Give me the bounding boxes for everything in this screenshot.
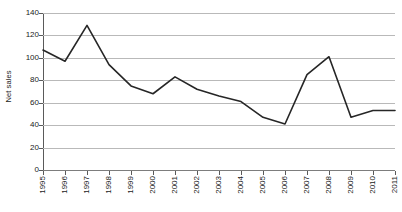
x-tick-label-text: 2009 [347,176,355,194]
x-axis-tick-1998 [109,171,110,175]
x-axis-tick-2004 [241,171,242,175]
y-axis-tick-40 [39,125,43,126]
x-tick-label-text: 1997 [83,176,91,194]
x-tick-label-text: 1996 [61,176,69,194]
x-tick-label-text: 1995 [39,176,47,194]
y-axis-tick-100 [39,58,43,59]
x-axis-tick-1999 [131,171,132,175]
data-series-net-sales [43,13,395,170]
x-axis-tick-2006 [285,171,286,175]
y-tick-label-120: 120 [14,31,39,39]
x-tick-label-text: 2003 [215,176,223,194]
y-axis-tick-20 [39,148,43,149]
x-axis-tick-2000 [153,171,154,175]
y-tick-label-80: 80 [14,76,39,84]
x-axis-tick-2005 [263,171,264,175]
x-tick-label-text: 2011 [391,176,399,193]
x-axis-tick-2001 [175,171,176,175]
x-tick-label-text: 2004 [237,176,245,194]
y-axis-tick-labels: 020406080100120140 [14,0,39,172]
x-axis-tick-labels: 1995199619971998199920002001200220032004… [0,176,402,212]
x-tick-label-text: 2008 [325,176,333,194]
y-axis-tick-0 [39,170,43,171]
x-axis-tick-1995 [43,171,44,175]
plot-area [43,13,395,170]
series-line-net-sales [43,25,395,124]
y-tick-label-0: 0 [14,166,39,174]
x-tick-label-text: 2010 [369,176,377,194]
y-axis-tick-120 [39,35,43,36]
y-tick-label-140: 140 [14,9,39,17]
x-tick-label-text: 1999 [127,176,135,194]
x-tick-label-2011: 2011 [378,176,402,210]
x-axis-tick-2010 [373,171,374,175]
x-tick-label-text: 1998 [105,176,113,194]
y-axis-tick-60 [39,103,43,104]
x-axis-tick-2003 [219,171,220,175]
x-axis-tick-1996 [65,171,66,175]
x-tick-label-text: 2007 [303,176,311,194]
y-axis-tick-140 [39,13,43,14]
line-chart-figure: Net sales 020406080100120140 19951996199… [0,0,402,212]
x-axis-tick-2008 [329,171,330,175]
x-axis-tick-2007 [307,171,308,175]
x-axis-tick-2002 [197,171,198,175]
y-tick-label-40: 40 [14,121,39,129]
x-axis-tick-2011 [395,171,396,175]
y-tick-label-100: 100 [14,54,39,62]
x-tick-label-text: 2002 [193,176,201,194]
x-axis-tick-1997 [87,171,88,175]
x-tick-label-text: 2001 [171,176,179,194]
x-tick-label-text: 2006 [281,176,289,194]
y-tick-label-20: 20 [14,144,39,152]
y-tick-label-60: 60 [14,99,39,107]
x-tick-label-text: 2000 [149,176,157,194]
y-axis-tick-80 [39,80,43,81]
x-tick-label-text: 2005 [259,176,267,194]
x-axis-tick-2009 [351,171,352,175]
y-axis-title-text: Net sales [4,70,13,102]
